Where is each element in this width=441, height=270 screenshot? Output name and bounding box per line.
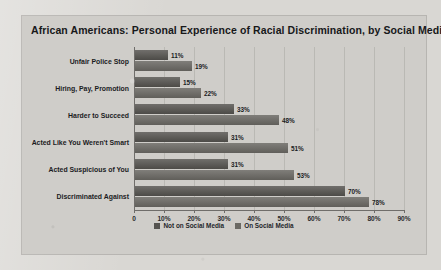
bar: 22%: [135, 88, 201, 98]
category-label: Acted Suspicious of You: [48, 166, 129, 173]
x-axis-tick-mark: [194, 210, 195, 213]
legend-swatch: [235, 223, 241, 229]
legend-swatch: [154, 223, 160, 229]
x-axis-tick-label: 80%: [367, 215, 380, 222]
bar-group: Hiring, Pay, Promotion15%22%: [135, 74, 404, 101]
x-axis-tick-label: 50%: [277, 215, 290, 222]
bar-value-label: 15%: [183, 79, 196, 86]
bar: 51%: [135, 143, 288, 153]
legend-item[interactable]: On Social Media: [235, 222, 293, 229]
bar-value-label: 78%: [372, 198, 385, 205]
category-label: Unfair Police Stop: [70, 57, 129, 64]
x-axis-tick-mark: [314, 210, 315, 213]
bar: 11%: [135, 50, 168, 60]
bar-value-label: 70%: [348, 187, 361, 194]
category-label: Hiring, Pay, Promotion: [55, 84, 129, 91]
bar-value-label: 22%: [204, 90, 217, 97]
bar-value-label: 31%: [231, 160, 244, 167]
x-axis-tick-label: 40%: [247, 215, 260, 222]
chart-card: African Americans: Personal Experience o…: [22, 16, 426, 254]
x-axis-tick-label: 0: [132, 215, 136, 222]
bar: 15%: [135, 77, 180, 87]
chart-title: African Americans: Personal Experience o…: [31, 24, 420, 36]
bar-value-label: 19%: [195, 63, 208, 70]
x-axis-tick-mark: [404, 210, 405, 213]
category-label: Acted Like You Weren't Smart: [32, 139, 129, 146]
x-axis-tick-mark: [374, 210, 375, 213]
bar: 19%: [135, 61, 192, 71]
bar-value-label: 53%: [297, 171, 310, 178]
x-axis-tick-mark: [254, 210, 255, 213]
x-axis-tick-label: 10%: [157, 215, 170, 222]
x-axis-tick-label: 90%: [397, 215, 410, 222]
x-axis-tick-mark: [134, 210, 135, 213]
x-axis-line: [134, 210, 404, 211]
legend-label: Not on Social Media: [163, 222, 224, 229]
plot-area: 010%20%30%40%50%60%70%80%90% Unfair Poli…: [134, 47, 404, 210]
bar-group: Acted Suspicious of You31%53%: [135, 156, 404, 183]
bar-group: Acted Like You Weren't Smart31%51%: [135, 129, 404, 156]
bar-value-label: 31%: [231, 133, 244, 140]
bar: 70%: [135, 186, 345, 196]
x-axis-tick-mark: [284, 210, 285, 213]
chart-legend: Not on Social MediaOn Social Media: [22, 222, 426, 229]
scanned-page: African Americans: Personal Experience o…: [0, 0, 441, 270]
bar-group: Harder to Succeed33%48%: [135, 101, 404, 128]
bar: 53%: [135, 170, 294, 180]
x-axis-tick-label: 30%: [217, 215, 230, 222]
bar-group: Unfair Police Stop11%19%: [135, 47, 404, 74]
bar: 33%: [135, 104, 234, 114]
category-label: Harder to Succeed: [68, 111, 129, 118]
x-axis-tick-label: 70%: [337, 215, 350, 222]
bar-group: Discriminated Against70%78%: [135, 183, 404, 210]
legend-label: On Social Media: [244, 222, 293, 229]
bar-value-label: 33%: [237, 106, 250, 113]
x-axis-tick-label: 60%: [307, 215, 320, 222]
bar-value-label: 11%: [171, 52, 183, 59]
bar-value-label: 48%: [282, 117, 295, 124]
bar: 78%: [135, 197, 369, 207]
bar: 31%: [135, 132, 228, 142]
gridline: [404, 47, 405, 210]
legend-item[interactable]: Not on Social Media: [154, 222, 224, 229]
x-axis-tick-label: 20%: [187, 215, 200, 222]
category-label: Discriminated Against: [57, 193, 130, 200]
x-axis-tick-mark: [224, 210, 225, 213]
bar: 31%: [135, 159, 228, 169]
bar: 48%: [135, 115, 279, 125]
x-axis-tick-mark: [344, 210, 345, 213]
bar-value-label: 51%: [291, 144, 304, 151]
x-axis-tick-mark: [164, 210, 165, 213]
